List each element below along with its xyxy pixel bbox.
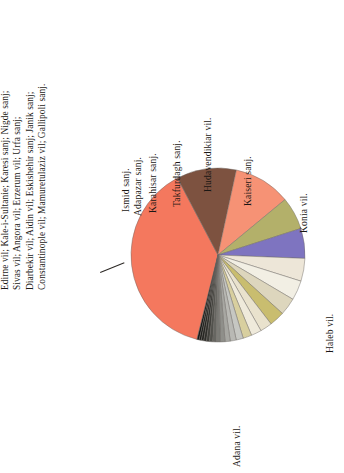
caption-line-1: Edirne vil; Kale-i-Sultanie; Karesi sanj… — [0, 0, 11, 290]
slice-label-adana: Adana vil. — [232, 426, 242, 467]
slice-label-ismid: Ismid sanj. — [121, 168, 131, 212]
caption-line-4: Constantinople vil; Mamuretulaziz vil; G… — [37, 0, 48, 290]
slice-label-takfurdagh: Takfurdagh sanj. — [172, 140, 182, 207]
caption-line-2: Sivas vil; Angora vil; Erzerum vil; Urfa… — [12, 0, 23, 290]
slice-label-adapazar: Adapazar sanj. — [133, 157, 143, 216]
slice-label-hudavendikiar: Hudavendikiar vil. — [203, 117, 213, 192]
figure-canvas: Edirne vil; Kale-i-Sultanie; Karesi sanj… — [0, 0, 344, 473]
leader-line — [100, 262, 124, 273]
slice-label-kaiseri: Kaiseri sanj. — [243, 156, 253, 206]
slice-label-konia: Konia vil. — [299, 193, 309, 233]
slice-label-karahisar: Karahisar sanj. — [148, 153, 158, 213]
caption-block: Edirne vil; Kale-i-Sultanie; Karesi sanj… — [0, 0, 96, 290]
slice-label-haleb: Haleb vil. — [325, 314, 335, 353]
caption-line-3: Diarbekir vil; Aidin vil; Eskishehir san… — [25, 0, 36, 290]
